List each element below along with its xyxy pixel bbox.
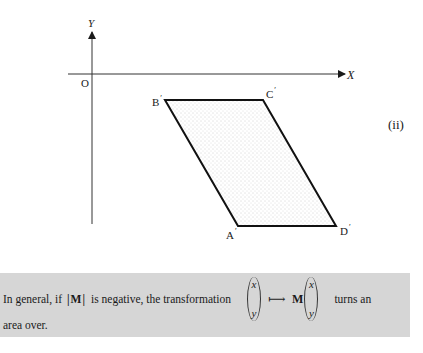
x-axis-label: X	[347, 69, 354, 81]
note-line-1: In general, if |M| is negative, the tran…	[3, 286, 371, 312]
vertex-label-b: B′	[152, 95, 162, 108]
parallelogram	[165, 100, 336, 226]
vertex-label-c: C′	[266, 87, 276, 100]
coordinate-figure: Y X O B′ C′ A′ D′ (ii)	[0, 0, 423, 260]
note-box: In general, if |M| is negative, the tran…	[0, 273, 410, 337]
vertex-label-d: D′	[340, 224, 351, 237]
output-vector: x y	[304, 277, 318, 321]
vector-y: y	[251, 308, 256, 319]
note-text-middle: is negative, the transformation	[91, 293, 231, 305]
mapsto-arrow: ⟼	[268, 292, 285, 307]
panel-label: (ii)	[388, 117, 404, 133]
origin-label: O	[81, 78, 89, 89]
note-text-start: In general, if	[3, 293, 62, 305]
note-text-end: turns an	[334, 293, 371, 305]
vertex-label-a: A′	[226, 228, 237, 241]
y-axis-label: Y	[88, 18, 94, 29]
note-line-2: area over.	[3, 319, 48, 331]
input-vector: x y	[247, 277, 261, 321]
vector-x: x	[309, 279, 314, 290]
figure-graphic	[0, 0, 423, 260]
determinant-expression: |M|	[67, 293, 86, 305]
vector-x: x	[251, 279, 256, 290]
matrix-m: M	[292, 292, 303, 307]
vector-y: y	[309, 308, 314, 319]
